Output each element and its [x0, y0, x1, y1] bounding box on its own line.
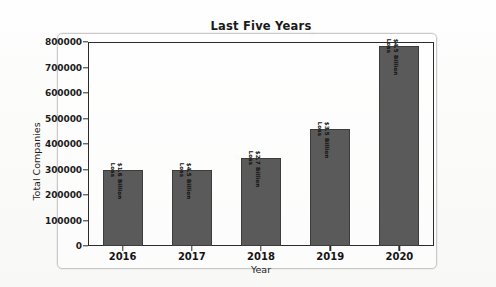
y-axis-tick-label: 0 [76, 241, 82, 251]
y-axis-tick-label: 100000 [45, 216, 82, 226]
x-axis-tick-label-2019: 2019 [316, 251, 344, 262]
y-axis-tick-label: 200000 [45, 190, 82, 200]
y-axis-tick-mark [83, 220, 88, 221]
x-axis-tick-label-2018: 2018 [247, 251, 275, 262]
y-axis-tick-label: 700000 [45, 63, 82, 73]
y-axis-tick-label: 500000 [45, 114, 82, 124]
y-axis-tick-mark [83, 245, 88, 246]
x-axis-title: Year [88, 264, 434, 275]
bar-2019: $3.5 BillionLoss [310, 129, 350, 246]
bar-2018: $2.7 BillionLoss [241, 158, 281, 246]
y-axis-tick-mark [83, 143, 88, 144]
bar-value-label: $4.5 BillionLoss [385, 38, 399, 75]
bar-value-label: $4.5 BillionLoss [178, 163, 192, 200]
y-axis-tick-mark [83, 169, 88, 170]
bar-2016: $1.6 BillionLoss [103, 170, 143, 247]
y-axis-tick-label: 400000 [45, 139, 82, 149]
y-axis-tick-mark [83, 194, 88, 195]
bar-2017: $4.5 BillionLoss [172, 170, 212, 246]
y-axis-tick-mark [83, 67, 88, 68]
bar-value-label: $1.6 BillionLoss [109, 162, 123, 199]
bar-value-label: $3.5 BillionLoss [316, 121, 330, 158]
x-axis-tick-label-2016: 2016 [109, 251, 137, 262]
y-axis-title-wrap: Total Companies [26, 60, 42, 220]
x-axis-tick-label-2020: 2020 [385, 251, 413, 262]
y-axis-tick-mark [83, 92, 88, 93]
y-axis-tick-mark [83, 118, 88, 119]
y-axis-tick-label: 300000 [45, 165, 82, 175]
bar-value-label: $2.7 BillionLoss [247, 151, 261, 188]
chart-title: Last Five Years [88, 19, 434, 33]
y-axis-title: Total Companies [31, 82, 42, 242]
y-axis-tick-label: 800000 [45, 37, 82, 47]
y-axis-tick-label: 600000 [45, 88, 82, 98]
chart-page: Last Five Years 010000020000030000040000… [0, 0, 496, 287]
bar-2020: $4.5 BillionLoss [379, 46, 419, 246]
y-axis-tick-mark [83, 41, 88, 42]
x-axis-tick-label-2017: 2017 [178, 251, 206, 262]
